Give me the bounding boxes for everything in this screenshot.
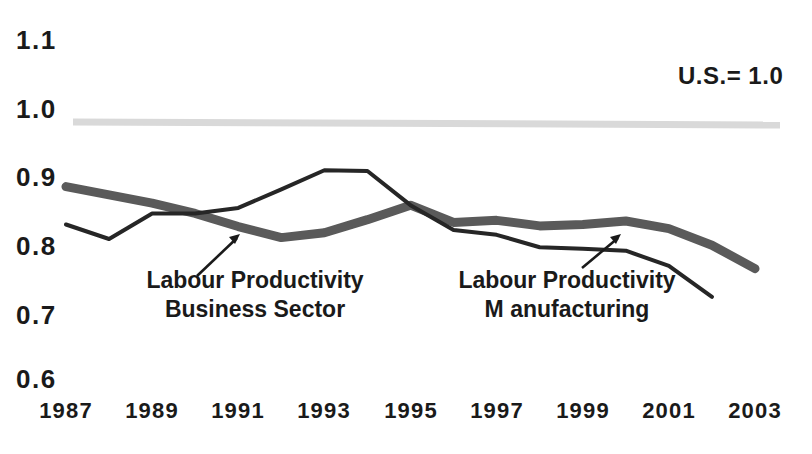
- us-reference-line: [73, 122, 780, 125]
- x-tick-label-1987: 1987: [26, 398, 106, 424]
- annotation-business-sector-line1: Labour Productivity: [140, 266, 370, 295]
- us-reference-note: U.S.= 1.0: [678, 62, 783, 90]
- y-tick-label-0-8: 0.8: [16, 231, 57, 262]
- x-tick-label-1999: 1999: [543, 398, 623, 424]
- annotation-manufacturing-line1: Labour Productivity: [452, 266, 682, 295]
- x-tick-label-1993: 1993: [284, 398, 364, 424]
- y-tick-label-1-0: 1.0: [16, 94, 57, 125]
- x-tick-label-1989: 1989: [112, 398, 192, 424]
- annotation-manufacturing-line2: M anufacturing: [452, 295, 682, 324]
- annotation-manufacturing: Labour Productivity M anufacturing: [452, 266, 682, 325]
- annotation-business-sector-line2: Business Sector: [140, 295, 370, 324]
- x-tick-label-1991: 1991: [198, 398, 278, 424]
- annotation-business-sector: Labour Productivity Business Sector: [140, 266, 370, 325]
- x-tick-label-1995: 1995: [371, 398, 451, 424]
- series-line-business-sector: [66, 187, 755, 269]
- y-tick-label-0-9: 0.9: [16, 162, 57, 193]
- x-tick-label-1997: 1997: [457, 398, 537, 424]
- x-tick-label-2001: 2001: [629, 398, 709, 424]
- y-tick-label-1-1: 1.1: [16, 25, 57, 56]
- y-tick-label-0-6: 0.6: [16, 364, 57, 395]
- chart-container: 1.1 1.0 0.9 0.8 0.7 0.6 1987 1989 1991 1…: [0, 0, 812, 454]
- x-tick-label-2003: 2003: [715, 398, 795, 424]
- y-tick-label-0-7: 0.7: [16, 300, 57, 331]
